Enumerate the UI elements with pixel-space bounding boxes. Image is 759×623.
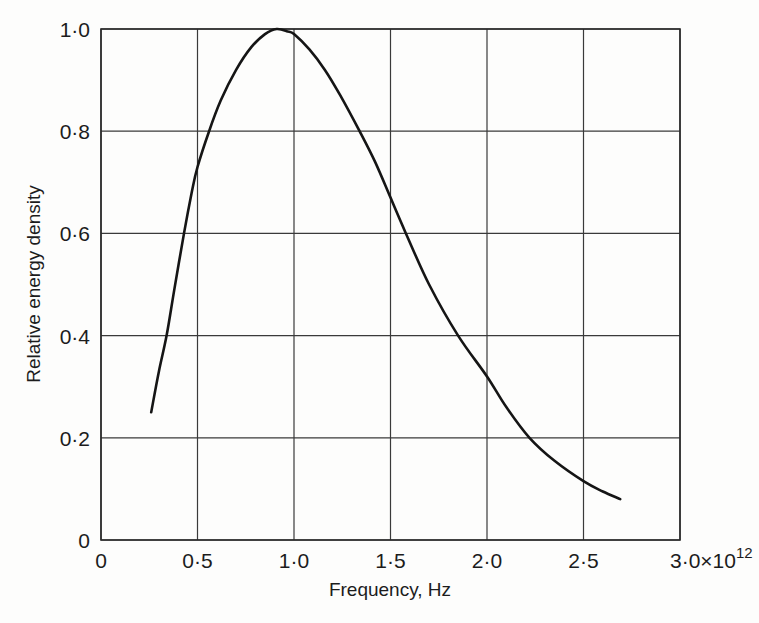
x-tick-label: 0·5 — [182, 549, 212, 572]
y-axis-ticks: 00·20·40·60·81·0 — [60, 18, 91, 552]
y-tick-label: 0·2 — [60, 427, 90, 450]
x-tick-label: 0 — [95, 549, 107, 572]
x-tick-exponent: 12 — [736, 544, 753, 561]
y-tick-label: 0 — [78, 529, 90, 552]
x-tick-label: 2·5 — [568, 549, 598, 572]
x-tick-label: 1·0 — [279, 549, 309, 572]
energy-density-chart: 00·20·40·60·81·0 00·51·01·52·02·53·0×101… — [0, 0, 759, 623]
x-tick-label: 2·0 — [472, 549, 502, 572]
y-tick-label: 0·6 — [60, 222, 90, 245]
y-axis-title: Relative energy density — [23, 185, 44, 383]
y-tick-label: 0·4 — [60, 325, 91, 348]
x-axis-title: Frequency, Hz — [329, 579, 451, 600]
x-tick-label: 3·0×1012 — [670, 544, 753, 572]
x-tick-label: 1·5 — [375, 549, 405, 572]
y-tick-label: 0·8 — [60, 120, 90, 143]
y-tick-label: 1·0 — [60, 18, 90, 41]
energy-density-curve — [151, 29, 620, 499]
grid-lines — [101, 29, 680, 540]
x-axis-ticks: 00·51·01·52·02·53·0×1012 — [95, 544, 753, 572]
